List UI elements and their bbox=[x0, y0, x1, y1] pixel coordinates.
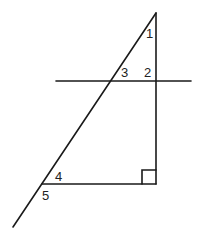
angle-label-1: 1 bbox=[146, 26, 153, 41]
angle-label-4: 4 bbox=[55, 169, 62, 184]
angle-label-3: 3 bbox=[121, 65, 128, 80]
right-angle-marker bbox=[142, 170, 156, 184]
angle-label-5: 5 bbox=[42, 188, 49, 203]
hypotenuse-line bbox=[13, 13, 156, 227]
geometry-diagram: 1 2 3 4 5 bbox=[0, 0, 198, 236]
angle-label-2: 2 bbox=[144, 65, 151, 80]
